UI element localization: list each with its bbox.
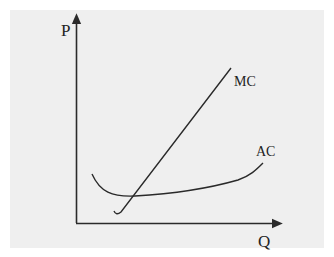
mc-curve: [114, 68, 231, 214]
y-axis-label: P: [61, 21, 70, 40]
cost-curve-diagram: P Q MC AC: [0, 0, 334, 257]
ac-label: AC: [256, 144, 275, 159]
x-axis-label: Q: [258, 232, 270, 251]
mc-label: MC: [234, 74, 256, 89]
ac-curve: [92, 163, 263, 196]
